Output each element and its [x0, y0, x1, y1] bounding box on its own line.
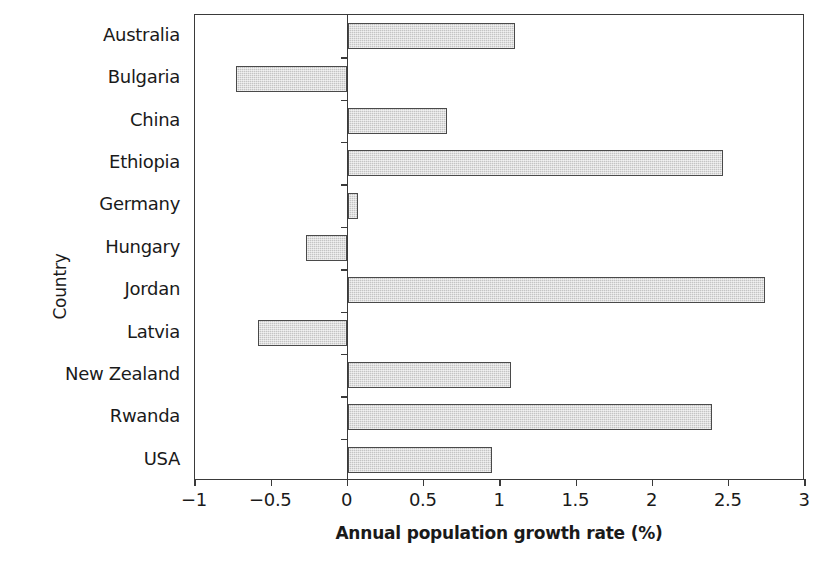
y-axis-tick-label: Germany [99, 183, 180, 225]
x-axis-tick-label: 0 [341, 489, 352, 510]
x-axis-tick-mark [347, 479, 348, 486]
x-axis-tick-label: −1 [181, 489, 207, 510]
bar [236, 66, 347, 92]
bar-chart: Country AustraliaBulgariaChinaEthiopiaGe… [0, 0, 823, 573]
y-axis-tick-mark [341, 100, 348, 101]
y-axis-tick-label: Hungary [105, 226, 180, 268]
y-axis-tick-label: China [130, 99, 180, 141]
x-axis-tick-labels: −1−0.500.511.522.53 [194, 489, 804, 515]
x-axis-tick-label: 0.5 [409, 489, 437, 510]
bar [348, 277, 766, 303]
bar [348, 108, 447, 134]
bar [348, 23, 516, 49]
x-axis-tick-mark [271, 479, 272, 486]
y-axis-tick-mark [341, 57, 348, 58]
bar [348, 447, 493, 473]
x-axis-tick-mark [652, 479, 653, 486]
x-axis-tick-mark [804, 479, 805, 486]
bars-layer [195, 15, 803, 479]
x-axis-tick-mark [576, 479, 577, 486]
x-axis-tick-label: 2 [646, 489, 657, 510]
plot-area [194, 14, 804, 480]
y-axis-tick-labels: AustraliaBulgariaChinaEthiopiaGermanyHun… [40, 14, 188, 480]
bar [258, 320, 348, 346]
y-axis-tick-label: Ethiopia [109, 141, 180, 183]
bar [306, 235, 347, 261]
y-axis-tick-mark [341, 439, 348, 440]
x-axis-tick-mark [423, 479, 424, 486]
x-axis-tick-label: 1.5 [561, 489, 589, 510]
bar [348, 193, 359, 219]
y-axis-tick-mark [341, 227, 348, 228]
y-axis-tick-mark [341, 184, 348, 185]
x-axis-tick-label: 1 [493, 489, 504, 510]
y-axis-tick-mark [341, 269, 348, 270]
x-axis-title: Annual population growth rate (%) [194, 523, 804, 543]
y-axis-tick-label: New Zealand [65, 353, 180, 395]
x-axis-tick-label: −0.5 [249, 489, 292, 510]
x-axis-tick-mark [728, 479, 729, 486]
x-axis-tick-label: 2.5 [714, 489, 742, 510]
y-axis-tick-mark [341, 354, 348, 355]
x-axis-tick-mark [499, 479, 500, 486]
y-axis-tick-label: Latvia [127, 311, 180, 353]
bar [348, 150, 723, 176]
bar [348, 404, 712, 430]
x-axis-tick-mark [194, 479, 195, 486]
y-axis-tick-mark [341, 312, 348, 313]
y-axis-tick-label: Rwanda [110, 395, 180, 437]
y-axis-tick-label: Australia [103, 14, 180, 56]
zero-baseline [347, 15, 349, 479]
y-axis-tick-label: Bulgaria [108, 56, 180, 98]
y-axis-tick-mark [341, 396, 348, 397]
x-axis-tick-label: 3 [798, 489, 809, 510]
y-axis-tick-label: Jordan [125, 268, 180, 310]
bar [348, 362, 511, 388]
y-axis-tick-mark [341, 142, 348, 143]
y-axis-tick-label: USA [144, 438, 180, 480]
